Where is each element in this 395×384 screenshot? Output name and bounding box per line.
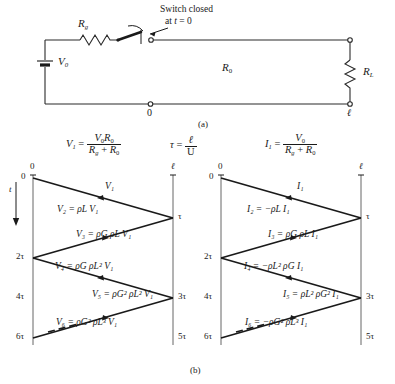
lattice-left-time-tick-0: 0 (21, 172, 26, 181)
switch-note-line-1: Switch closed (160, 5, 213, 15)
lattice-left-time-tick-2tau: 2τ (16, 252, 24, 261)
wave-label-I5: I₅ = ρL² ρG² I₁ (283, 290, 339, 300)
lattice-right-time-tick-0: 0 (209, 172, 214, 181)
wave-label-I6: I₆ = −ρG² ρL³ I₁ (245, 318, 307, 328)
wave-label-I3: I₃ = ρG ρL I₁ (268, 230, 318, 240)
bounce-diagrams (0, 130, 395, 370)
figure-transmission-line-bounce-diagram: Rg Switch closed at t = 0 V0 R0 RL 0 ℓ (… (0, 0, 395, 384)
wave-label-V5: V₅ = ρG² ρL² V₁ (92, 290, 153, 300)
wave-label-V3: V₃ = ρG ρL V₁ (76, 230, 131, 240)
lattice-left-time-tick-5tau: 5τ (178, 332, 186, 341)
lattice-left-pos-tick-0: 0 (30, 162, 35, 171)
label-v0-source: V0 (58, 56, 68, 69)
lattice-left-time-tick-tau: τ (178, 212, 182, 221)
wave-label-I1: I₁ (297, 182, 303, 192)
label-rg: Rg (78, 18, 88, 31)
lattice-left-time-tick-6tau: 6τ (16, 332, 24, 341)
lattice-right-time-tick-5tau: 5τ (366, 332, 374, 341)
time-axis-label: t (9, 185, 12, 194)
wave-label-I2: I₂ = −ρL I₁ (247, 205, 290, 215)
lattice-right-pos-tick-l: ℓ (359, 162, 363, 171)
node-label-0-circuit: 0 (147, 108, 152, 118)
switch-note-line-2: at t = 0 (165, 17, 192, 27)
wave-label-V2: V₂ = ρL V₁ (57, 205, 98, 215)
lattice-right-time-tick-tau: τ (366, 212, 370, 221)
wave-label-V6: V₆ = ρG² ρL³ V₁ (56, 318, 117, 328)
lattice-right-time-tick-3tau: 3τ (366, 292, 374, 301)
wave-label-V1: V₁ (105, 182, 114, 192)
lattice-right-pos-tick-0: 0 (218, 162, 223, 171)
lattice-right-time-tick-4tau: 4τ (204, 292, 212, 301)
lattice-left-time-tick-4tau: 4τ (16, 292, 24, 301)
wave-label-I4: I₄ = −ρL² ρG I₁ (244, 262, 303, 272)
lattice-right-time-tick-2tau: 2τ (204, 252, 212, 261)
caption-panel-a: (a) (198, 120, 208, 129)
node-label-l-circuit: ℓ (347, 108, 351, 118)
lattice-left-pos-tick-l: ℓ (171, 162, 175, 171)
label-r0: R0 (222, 62, 232, 75)
lattice-right-time-tick-6tau: 6τ (204, 332, 212, 341)
wave-label-V4: V₄ = ρG ρL² V₁ (55, 262, 113, 272)
caption-panel-b: (b) (190, 366, 201, 375)
lattice-left-time-tick-3tau: 3τ (178, 292, 186, 301)
label-rl: RL (363, 66, 374, 79)
